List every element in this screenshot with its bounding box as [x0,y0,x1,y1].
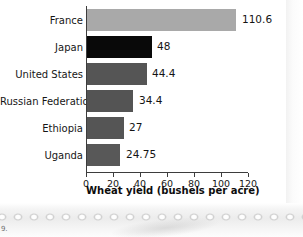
category-label-japan: Japan [0,42,83,53]
page-edge-shadow [286,0,303,203]
x-tick-40 [140,173,141,177]
bar-value-japan: 48 [157,40,170,52]
x-tick-120 [248,173,249,177]
bar-value-france: 110.6 [242,13,272,25]
category-label-ethiopia: Ethiopia [0,123,83,134]
category-label-uganda: Uganda [0,150,83,161]
x-tick-100 [221,173,222,177]
category-label-united-states: United States [0,69,83,80]
scan-caption-fragment: 9. [1,225,7,233]
bar-ethiopia[interactable] [87,117,124,139]
category-label-france: France [0,15,83,26]
x-tick-60 [167,173,168,177]
scanned-page: France Japan United States Russian Feder… [0,0,303,237]
bar-united-states[interactable] [87,63,147,85]
bar-value-russian-federation: 34.4 [139,94,162,106]
chart-figure: France Japan United States Russian Feder… [0,0,286,203]
bar-france[interactable] [87,9,236,31]
plot-area: 0 20 40 60 80 100 120 110.6 48 44.4 [86,6,248,172]
x-axis-title: Wheat yield (bushels per acre) [86,185,248,196]
category-axis-labels: France Japan United States Russian Feder… [0,6,83,172]
bar-value-uganda: 24.75 [126,148,156,160]
x-tick-0 [86,173,87,177]
x-tick-80 [194,173,195,177]
bar-value-ethiopia: 27 [129,121,142,133]
x-tick-20 [113,173,114,177]
bar-japan[interactable] [87,36,152,58]
bar-value-united-states: 44.4 [152,67,175,79]
bar-russian-federation[interactable] [87,90,133,112]
scan-artifact-strip: 9. [0,203,303,237]
bar-uganda[interactable] [87,144,120,166]
category-label-russian-federation: Russian Federation [0,96,83,107]
